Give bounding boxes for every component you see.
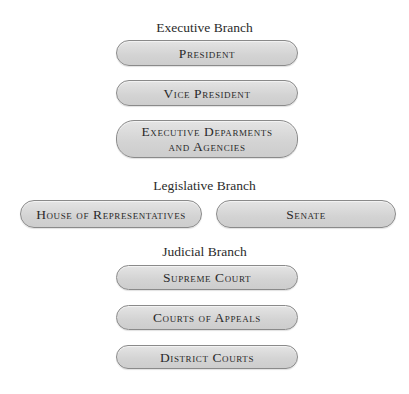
- president-label: President: [179, 46, 235, 61]
- executive-departments-label-line2: and Agencies: [168, 139, 245, 154]
- executive-departments-label-line1: Executive Deparments: [141, 124, 272, 139]
- house-of-representatives-node: House of Representatives: [20, 200, 202, 228]
- courts-of-appeals-label: Courts of Appeals: [153, 310, 261, 325]
- senate-node: Senate: [216, 200, 396, 228]
- executive-branch-heading: Executive Branch: [0, 20, 409, 36]
- courts-of-appeals-node: Courts of Appeals: [116, 305, 298, 330]
- supreme-court-node: Supreme Court: [116, 265, 298, 290]
- legislative-branch-heading: Legislative Branch: [0, 178, 409, 194]
- judicial-branch-heading: Judicial Branch: [0, 244, 409, 260]
- president-node: President: [116, 40, 298, 66]
- house-label: House of Representatives: [36, 207, 186, 222]
- vice-president-node: Vice President: [116, 80, 298, 106]
- district-courts-node: District Courts: [116, 345, 298, 369]
- executive-departments-node: Executive Deparments and Agencies: [116, 120, 298, 158]
- vice-president-label: Vice President: [163, 86, 250, 101]
- supreme-court-label: Supreme Court: [163, 270, 251, 285]
- senate-label: Senate: [286, 207, 326, 222]
- district-courts-label: District Courts: [160, 350, 254, 365]
- clipped-page-title: [0, 0, 409, 3]
